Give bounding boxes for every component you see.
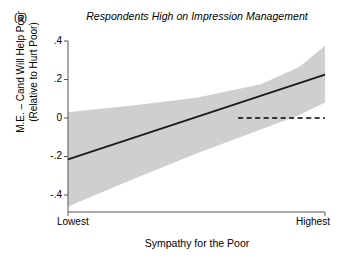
chart-title: Respondents High on Impression Managemen… — [68, 10, 326, 22]
y-tick-label: -.4 — [32, 190, 62, 200]
x-axis-label: Sympathy for the Poor — [68, 237, 326, 249]
confidence-interval-band — [68, 46, 325, 207]
y-tick-label: .4 — [32, 36, 62, 46]
x-tick-label-lowest: Lowest — [57, 216, 89, 227]
y-tick-label: .2 — [32, 74, 62, 84]
figure-panel-a: (a) Respondents High on Impression Manag… — [0, 0, 350, 259]
y-tick-label: 0 — [32, 113, 62, 123]
x-tick-label-highest: Highest — [296, 216, 330, 227]
y-axis-ticks — [64, 41, 68, 195]
x-axis-ticks — [68, 212, 325, 216]
y-tick-label: -.2 — [32, 151, 62, 161]
confidence-band-group — [68, 46, 325, 207]
